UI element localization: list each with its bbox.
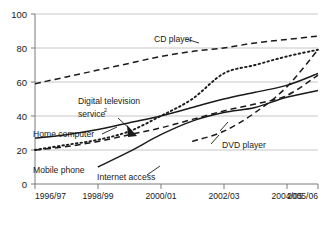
- series-label-digital-tv-line2: service: [78, 109, 105, 119]
- y-tickmarks: [31, 14, 35, 184]
- x-tick-label-1996-97: 1996/97: [35, 191, 66, 201]
- y-tick-label-100: 100: [11, 9, 27, 20]
- chart-canvas: 100 80 60 40 20 0 1996/97 1998/99 2000/0…: [0, 0, 329, 226]
- annotation-leaders: [102, 39, 228, 175]
- y-tick-label-80: 80: [16, 43, 27, 54]
- leader-dvd-player-2: [220, 122, 228, 131]
- series-label-digital-tv-superscript: 2: [104, 107, 107, 113]
- y-tick-label-20: 20: [16, 145, 27, 156]
- series-label-home-computer: Home computer: [33, 129, 94, 139]
- x-tick-label-2000-01: 2000/01: [145, 191, 176, 201]
- series-label-mobile-phone: Mobile phone: [33, 165, 85, 175]
- line-chart: 100 80 60 40 20 0 1996/97 1998/99 2000/0…: [0, 0, 329, 226]
- y-tick-label-60: 60: [16, 77, 27, 88]
- arrowhead-digital-tv: [127, 125, 137, 137]
- y-tick-label-40: 40: [16, 111, 27, 122]
- series-label-dvd-player: DVD player: [222, 140, 266, 150]
- x-tick-label-1998-99: 1998/99: [82, 191, 113, 201]
- series-label-internet-access: Internet access: [97, 172, 155, 182]
- x-tick-label-2002-03: 2002/03: [208, 191, 239, 201]
- x-tickmarks: [35, 184, 318, 189]
- y-tick-label-0: 0: [22, 179, 27, 190]
- series-label-digital-tv-line1: Digital television: [78, 96, 140, 106]
- series-path-dvd-player: [192, 50, 318, 142]
- series-label-cd-player: CD player: [154, 34, 192, 44]
- x-tick-label-2005-06: 2005/06: [287, 191, 318, 201]
